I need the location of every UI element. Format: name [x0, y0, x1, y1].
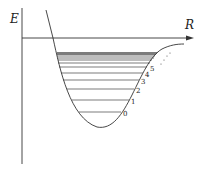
potential-curve: [46, 10, 184, 127]
axis-arrow-icon: [186, 36, 194, 41]
level-label-5: 5: [150, 65, 154, 73]
energy-axis-label: E: [9, 12, 19, 26]
diagram-svg: E R 0 1 2 3 4 5: [0, 0, 205, 176]
level-label-1: 1: [131, 98, 135, 106]
distance-axis-label: R: [184, 18, 194, 32]
morse-potential-diagram: E R 0 1 2 3 4 5: [0, 0, 205, 176]
level-label-0: 0: [123, 110, 127, 118]
level-label-2: 2: [136, 87, 140, 95]
level-label-3: 3: [141, 78, 145, 86]
dissociation-dots: [160, 52, 170, 64]
